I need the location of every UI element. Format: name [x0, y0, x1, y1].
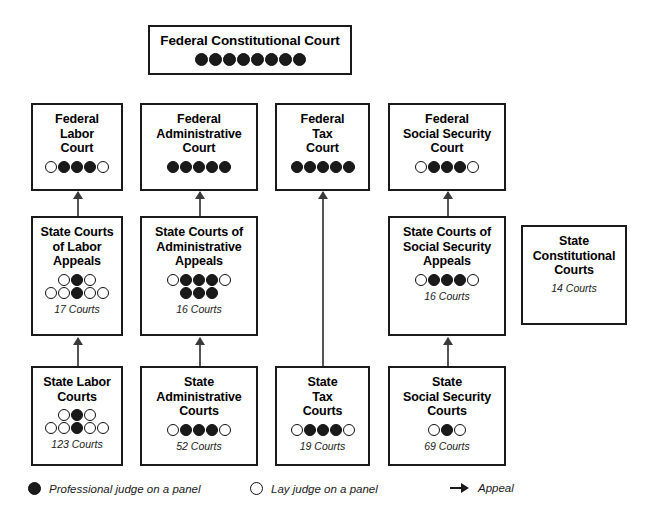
lay-judge-dot-icon: [167, 274, 179, 286]
lay-judge-dot-icon: [454, 424, 466, 436]
professional-judge-dot-icon: [223, 53, 236, 66]
professional-judge-dot-icon: [454, 161, 466, 173]
professional-judge-dot-icon: [428, 274, 440, 286]
lay-judge-dot-icon: [415, 274, 427, 286]
court-count-label: 19 Courts: [300, 440, 346, 452]
arrow-shaft: [322, 192, 324, 366]
judge-panel-dot-row: [167, 161, 231, 173]
professional-judge-dot-icon: [209, 53, 222, 66]
professional-judge-dot-icon: [428, 161, 440, 173]
lay-judge-dot-icon: [84, 409, 96, 421]
arrow-head-icon: [73, 191, 83, 199]
judge-panel-dots: [428, 424, 466, 436]
professional-judge-dot-icon: [206, 424, 218, 436]
lay-judge-dot-icon: [97, 287, 109, 299]
court-title: Federal Constitutional Court: [160, 34, 339, 49]
professional-judge-dot-icon: [317, 424, 329, 436]
professional-judge-dot-icon: [304, 424, 316, 436]
professional-judge-dot-icon: [28, 482, 41, 495]
professional-judge-dot-icon: [71, 287, 83, 299]
judge-panel-dot-row: [45, 287, 109, 299]
court-box-state-constitutional-courts: State Constitutional Courts14 Courts: [521, 225, 627, 325]
court-box-federal-labor-court: Federal Labor Court: [31, 103, 123, 191]
lay-judge-dot-icon: [58, 409, 70, 421]
professional-judge-dot-icon: [293, 53, 306, 66]
appeal-arrow-icon: [450, 483, 470, 493]
judge-panel-dot-row: [180, 287, 218, 299]
judge-panel-dots: [415, 161, 479, 173]
professional-judge-dot-icon: [206, 161, 218, 173]
professional-judge-dot-icon: [206, 274, 218, 286]
court-title: Federal Social Security Court: [403, 112, 491, 156]
judge-panel-dot-row: [45, 422, 109, 434]
judge-panel-dot-row: [195, 53, 306, 66]
legend-item-professional-judge: Professional judge on a panel: [28, 482, 201, 495]
judge-panel-dots: [291, 424, 355, 436]
professional-judge-dot-icon: [304, 161, 316, 173]
judge-panel-dots: [45, 161, 109, 173]
professional-judge-dot-icon: [71, 274, 83, 286]
arrow-head-icon: [195, 191, 205, 199]
lay-judge-dot-icon: [58, 274, 70, 286]
professional-judge-dot-icon: [343, 161, 355, 173]
judge-panel-dot-row: [45, 161, 109, 173]
professional-judge-dot-icon: [251, 53, 264, 66]
arrow-head-icon: [461, 483, 469, 493]
professional-judge-dot-icon: [291, 161, 303, 173]
judge-panel-dots: [195, 53, 306, 66]
professional-judge-dot-icon: [84, 161, 96, 173]
lay-judge-dot-icon: [467, 161, 479, 173]
lay-judge-dot-icon: [45, 161, 57, 173]
professional-judge-dot-icon: [454, 274, 466, 286]
judge-panel-dot-row: [415, 274, 479, 286]
lay-judge-dot-icon: [97, 422, 109, 434]
lay-judge-dot-icon: [219, 424, 231, 436]
legend-label: Professional judge on a panel: [49, 483, 201, 495]
professional-judge-dot-icon: [441, 424, 453, 436]
lay-judge-dot-icon: [84, 274, 96, 286]
court-box-state-courts-of-social-security-appeals: State Courts of Social Security Appeals1…: [388, 216, 506, 336]
professional-judge-dot-icon: [71, 422, 83, 434]
court-title: State Courts of Labor Appeals: [40, 225, 113, 269]
court-box-state-administrative-courts: State Administrative Courts52 Courts: [140, 366, 258, 466]
legend-label: Appeal: [478, 482, 514, 494]
court-box-federal-social-security-court: Federal Social Security Court: [388, 103, 506, 191]
court-count-label: 14 Courts: [551, 282, 597, 294]
professional-judge-dot-icon: [237, 53, 250, 66]
arrow-head-icon: [443, 191, 453, 199]
judge-panel-dot-row: [428, 424, 466, 436]
lay-judge-dot-icon: [415, 161, 427, 173]
court-title: State Labor Courts: [43, 375, 111, 404]
lay-judge-dot-icon: [291, 424, 303, 436]
judge-panel-dot-row: [58, 409, 96, 421]
professional-judge-dot-icon: [193, 161, 205, 173]
court-count-label: 69 Courts: [424, 440, 470, 452]
judge-panel-dots: [167, 161, 231, 173]
court-title: State Tax Courts: [303, 375, 343, 419]
court-box-state-tax-courts: State Tax Courts19 Courts: [275, 366, 370, 466]
court-system-diagram: Federal Constitutional CourtFederal Labo…: [0, 0, 649, 525]
professional-judge-dot-icon: [193, 274, 205, 286]
lay-judge-dot-icon: [97, 161, 109, 173]
court-box-federal-constitutional-court: Federal Constitutional Court: [148, 25, 352, 75]
lay-judge-dot-icon: [84, 287, 96, 299]
judge-panel-dots: [291, 161, 355, 173]
professional-judge-dot-icon: [180, 274, 192, 286]
professional-judge-dot-icon: [441, 274, 453, 286]
court-box-federal-tax-court: Federal Tax Court: [275, 103, 370, 191]
court-title: Federal Administrative Court: [156, 112, 241, 156]
professional-judge-dot-icon: [193, 424, 205, 436]
court-box-state-courts-of-labor-appeals: State Courts of Labor Appeals17 Courts: [31, 216, 123, 336]
professional-judge-dot-icon: [279, 53, 292, 66]
arrow-head-icon: [73, 337, 83, 345]
lay-judge-dot-icon: [467, 274, 479, 286]
legend-item-appeal: Appeal: [450, 482, 514, 494]
lay-judge-dot-icon: [167, 424, 179, 436]
court-title: State Courts of Social Security Appeals: [403, 225, 491, 269]
lay-judge-dot-icon: [428, 424, 440, 436]
arrow-head-icon: [443, 337, 453, 345]
judge-panel-dots: [45, 274, 109, 299]
professional-judge-dot-icon: [219, 161, 231, 173]
professional-judge-dot-icon: [71, 409, 83, 421]
judge-panel-dot-row: [58, 274, 96, 286]
